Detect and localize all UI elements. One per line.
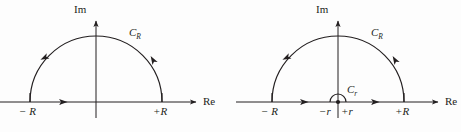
right-pole-dot [336,100,340,104]
right-label-minus-R: − R [261,106,278,117]
left-panel-group [0,21,196,118]
right-label-plus-r: +r [341,106,353,117]
left-imaginary-axis-label: Im [74,4,86,15]
right-label-plus-R: +R [395,106,409,117]
left-label-plus-R: +R [153,106,167,117]
left-real-axis-label: Re [203,96,215,107]
right-curve-label-CR: CR [371,27,383,41]
right-curve-label-Cr: Cr [347,84,357,98]
left-label-minus-R: − R [19,106,36,117]
contour-diagram-canvas [0,0,461,132]
right-label-minus-r: −r [319,106,331,117]
right-curve-label-r-subscript: r [354,89,357,98]
right-panel-group [236,21,438,118]
left-curve-label-R-subscript: R [136,32,141,41]
left-curve-label-CR: CR [129,27,141,41]
right-real-axis-label: Re [445,96,457,107]
right-curve-label-R-subscript: R [378,32,383,41]
complex-contour-figure: Im Re − R +R CR Im Re − R −r +r +R CR Cr [0,0,461,132]
right-imaginary-axis-label: Im [316,4,328,15]
